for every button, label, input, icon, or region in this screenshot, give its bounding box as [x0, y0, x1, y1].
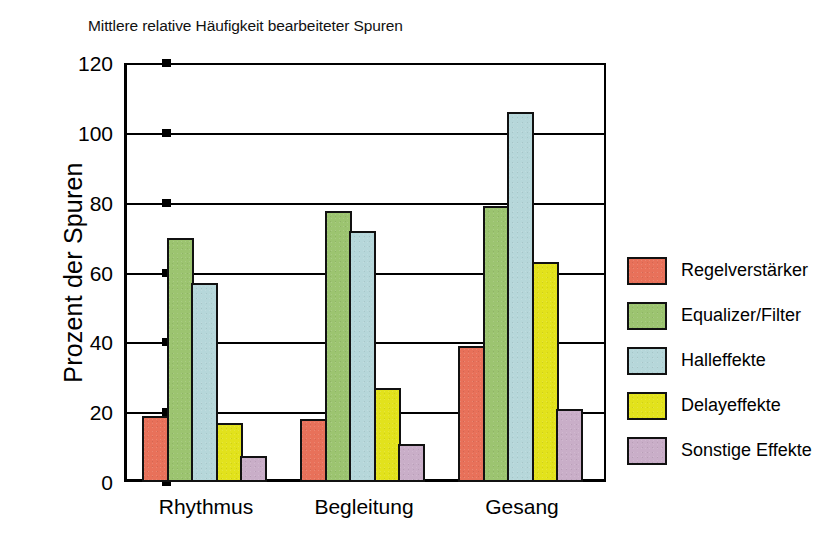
bar: [325, 211, 352, 482]
bar: [374, 388, 401, 482]
legend-color-swatch: [627, 347, 667, 375]
bar: [167, 238, 194, 482]
y-axis-tick-label: 120: [53, 53, 113, 74]
x-axis-category-label: Begleitung: [314, 495, 413, 519]
y-axis-tick-label: 40: [53, 332, 113, 353]
bar-texture: [242, 458, 265, 480]
legend-color-swatch: [627, 392, 667, 420]
bar-texture: [534, 264, 557, 480]
y-axis-tick-label: 100: [53, 122, 113, 143]
legend-item[interactable]: Equalizer/Filter: [627, 293, 812, 338]
bar: [240, 456, 267, 482]
y-axis-tick-label: 20: [53, 402, 113, 423]
bar-texture: [376, 390, 399, 480]
bar-texture: [400, 446, 423, 480]
y-axis-tick-label: 60: [53, 262, 113, 283]
chart-figure: Mittlere relative Häufigkeit bearbeitete…: [0, 0, 821, 550]
legend-item[interactable]: Regelverstärker: [627, 248, 812, 293]
swatch-texture: [629, 394, 665, 418]
plot-area: [124, 63, 606, 482]
bar: [216, 423, 243, 482]
bar: [532, 262, 559, 482]
y-axis-tick-label: 0: [53, 472, 113, 493]
bar-texture: [558, 411, 581, 480]
legend-color-swatch: [627, 437, 667, 465]
legend-label: Delayeffekte: [681, 395, 781, 416]
bar-texture: [169, 240, 192, 480]
bar-texture: [509, 114, 532, 480]
y-axis-tick-label: 80: [53, 192, 113, 213]
bar-texture: [351, 233, 374, 480]
bar: [191, 283, 218, 482]
bar-texture: [302, 421, 325, 480]
bar-texture: [460, 348, 483, 480]
bar: [142, 416, 169, 482]
legend-label: Halleffekte: [681, 350, 766, 371]
legend-color-swatch: [627, 302, 667, 330]
x-axis-category-label: Gesang: [485, 495, 559, 519]
bar: [398, 444, 425, 482]
bar-texture: [327, 213, 350, 480]
x-axis-category-label: Rhythmus: [159, 495, 254, 519]
legend: RegelverstärkerEqualizer/FilterHalleffek…: [627, 248, 812, 473]
bar-texture: [218, 425, 241, 480]
swatch-texture: [629, 439, 665, 463]
legend-label: Sonstige Effekte: [681, 440, 812, 461]
legend-item[interactable]: Halleffekte: [627, 338, 812, 383]
bar: [483, 206, 510, 482]
swatch-texture: [629, 304, 665, 328]
bar-group: [458, 63, 583, 482]
bar: [507, 112, 534, 482]
legend-label: Regelverstärker: [681, 260, 808, 281]
legend-item[interactable]: Delayeffekte: [627, 383, 812, 428]
bar-group: [142, 63, 267, 482]
bar: [458, 346, 485, 482]
bar-texture: [144, 418, 167, 480]
legend-color-swatch: [627, 257, 667, 285]
legend-item[interactable]: Sonstige Effekte: [627, 428, 812, 473]
bar: [556, 409, 583, 482]
swatch-texture: [629, 349, 665, 373]
bar-group: [300, 63, 425, 482]
bar: [349, 231, 376, 482]
legend-label: Equalizer/Filter: [681, 305, 801, 326]
swatch-texture: [629, 259, 665, 283]
bar-texture: [485, 208, 508, 480]
bar-texture: [193, 285, 216, 480]
y-axis-tick-labels: 020406080100120: [43, 63, 113, 482]
bar: [300, 419, 327, 482]
chart-title: Mittlere relative Häufigkeit bearbeitete…: [88, 17, 403, 35]
